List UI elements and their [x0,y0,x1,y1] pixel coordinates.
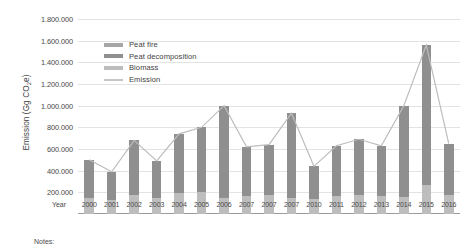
x-axis-tick-label: 2007 [284,201,299,208]
y-axis-tick-label: 1.600.000 [41,36,73,45]
legend-item: Biomass [104,62,197,74]
emission-chart-figure: Emission (Gg CO2e) 200.000400.000600.000… [0,0,467,249]
legend-item: Peat fire [104,39,197,51]
legend-item: Emission [104,74,197,86]
y-axis-tick-label: 1.000.000 [41,101,73,110]
x-axis-tick-label: 2015 [419,201,434,208]
y-axis-tick-label: 1.800.000 [41,15,73,24]
x-axis-tick-label: 2010 [306,201,321,208]
y-axis-tick-label: 800.000 [47,123,73,132]
x-axis-tick-label: 2002 [127,201,142,208]
y-axis-tick-label: 1.200.000 [41,80,73,89]
x-axis-tick-label: 2007 [239,201,254,208]
x-axis-tick-label: 2006 [216,201,231,208]
legend-swatch-icon [104,66,123,70]
legend-swatch-icon [104,79,123,81]
y-axis-tick-label: 400.000 [47,166,73,175]
x-axis-tick-label: 2012 [351,201,366,208]
x-axis-tick-label: 2000 [82,201,97,208]
y-axis-tick-label: 200.000 [47,188,73,197]
x-axis-tick-label: 2003 [149,201,164,208]
x-axis-tick-label: 2004 [172,201,187,208]
x-axis-tick-label: 2001 [104,201,119,208]
y-axis-tick-label: 1.400.000 [41,58,73,67]
legend-item-label: Peat decomposition [129,52,197,61]
legend-swatch-icon [104,54,123,58]
legend-item: Peat decomposition [104,51,197,63]
x-axis-tick-label: 2016 [441,201,456,208]
x-axis-title: Year [52,201,66,208]
chart-legend: Peat firePeat decompositionBiomassEmissi… [104,39,197,85]
legend-item-label: Peat fire [129,40,158,49]
y-axis-title: Emission (Gg CO2e) [22,33,31,193]
notes-label: Notes: [34,238,54,245]
x-axis-tick-label: 2014 [396,201,411,208]
legend-item-label: Emission [129,75,160,84]
x-axis-tick-label: 2005 [194,201,209,208]
x-axis-tick-label: 2013 [374,201,389,208]
y-axis-title-text: Emission (Gg CO2e) [22,74,31,150]
x-axis-tick-label: 2007 [261,201,276,208]
legend-item-label: Biomass [129,63,158,72]
legend-swatch-icon [104,43,123,47]
y-axis-tick-label: 600.000 [47,145,73,154]
x-axis-tick-label: 2011 [329,201,344,208]
